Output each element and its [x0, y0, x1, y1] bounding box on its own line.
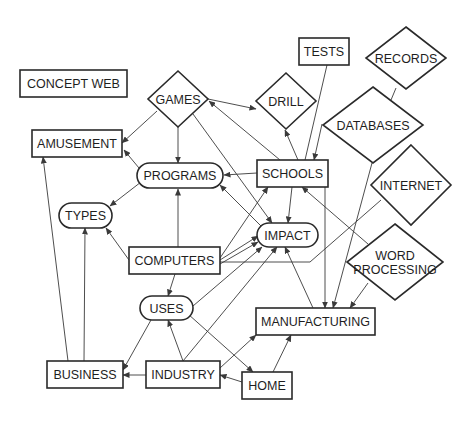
node-industry: INDUSTRY [146, 361, 220, 388]
edge-schools-to-impact [288, 187, 292, 223]
edge-tests-to-schools [305, 65, 327, 160]
edge-records-to-databases [391, 88, 396, 100]
node-label: COMPUTERS [135, 254, 215, 268]
edge-industry-to-manufacturing [220, 335, 256, 368]
node-schools: SCHOOLS [257, 160, 328, 187]
node-uses: USES [140, 296, 193, 320]
edge-computers-to-impact [220, 236, 258, 260]
node-computers: COMPUTERS [129, 247, 220, 274]
node-word-processing: WORDPROCESSING [347, 224, 443, 300]
nodes-layer: CONCEPT WEBGAMESAMUSEMENTPROGRAMSTYPESTE… [20, 27, 451, 399]
node-label: TYPES [65, 209, 106, 223]
edge-computers-to-impact [220, 242, 258, 264]
node-home: HOME [242, 372, 292, 399]
node-label: WORD [375, 249, 415, 263]
edge-computers-to-schools [220, 187, 268, 258]
node-label: GAMES [155, 93, 200, 107]
node-label: HOME [248, 379, 286, 393]
node-label: MANUFACTURING [261, 315, 370, 329]
node-business: BUSINESS [47, 361, 123, 388]
edge-home-to-manufacturing [273, 335, 291, 372]
node-drill: DRILL [256, 73, 316, 129]
edge-impact-to-programs [220, 185, 262, 227]
node-label: AMUSEMENT [37, 137, 117, 151]
node-amusement: AMUSEMENT [32, 130, 122, 157]
node-label: USES [149, 302, 183, 316]
node-label: CONCEPT WEB [27, 77, 120, 91]
edge-games-to-amusement [122, 111, 157, 143]
node-label: PROGRAMS [144, 169, 217, 183]
edge-computers-to-types [106, 228, 129, 260]
node-label: SCHOOLS [262, 167, 323, 181]
edge-databases-to-schools [314, 124, 322, 160]
node-impact: IMPACT [257, 223, 318, 247]
node-label: DRILL [268, 95, 303, 109]
edge-programs-to-amusement [124, 150, 139, 168]
node-label: TESTS [304, 45, 344, 59]
edge-home-to-industry [220, 375, 242, 382]
node-types: TYPES [59, 203, 112, 228]
edge-programs-to-types [110, 182, 141, 206]
node-records: RECORDS [366, 27, 446, 89]
node-label: IMPACT [264, 229, 311, 243]
edge-computers-to-uses [168, 274, 175, 296]
node-internet: INTERNET [371, 145, 451, 225]
edge-industry-to-uses [168, 320, 183, 361]
node-programs: PROGRAMS [137, 163, 223, 188]
node-label: INTERNET [380, 179, 443, 193]
node-games: GAMES [148, 71, 208, 127]
node-concept-web: CONCEPT WEB [20, 70, 127, 97]
edge-schools-to-drill [285, 130, 298, 160]
node-manufacturing: MANUFACTURING [256, 308, 375, 335]
node-label: BUSINESS [53, 368, 116, 382]
node-label: RECORDS [375, 52, 438, 66]
node-label: PROCESSING [353, 263, 436, 277]
node-tests: TESTS [299, 38, 349, 65]
edge-business-to-amusement [43, 157, 68, 361]
edge-manufacturing-to-impact [285, 247, 313, 308]
node-label: INDUSTRY [151, 368, 215, 382]
edge-word_processing-to-manufacturing [350, 283, 368, 308]
edge-business-to-types [84, 228, 85, 361]
edge-schools-to-programs [224, 173, 257, 175]
concept-web-diagram: CONCEPT WEBGAMESAMUSEMENTPROGRAMSTYPESTE… [0, 0, 469, 423]
edge-games-to-drill [208, 99, 256, 109]
node-label: DATABASES [336, 119, 409, 133]
